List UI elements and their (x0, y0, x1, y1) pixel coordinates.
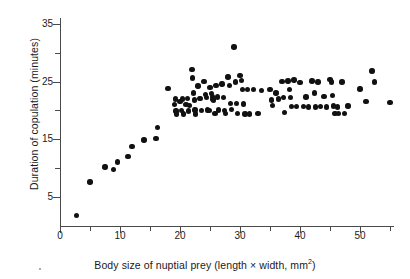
data-point (115, 159, 120, 164)
data-point (255, 111, 260, 116)
data-point (336, 111, 341, 116)
data-point (245, 87, 250, 92)
data-point (141, 137, 146, 142)
x-tick-label: 50 (340, 230, 380, 241)
data-point (189, 67, 194, 72)
x-tick-label: 0 (40, 230, 80, 241)
y-tick-label: 15 (42, 133, 53, 144)
data-point (234, 101, 239, 106)
data-point (187, 103, 192, 108)
x-tick-label: 20 (160, 230, 200, 241)
data-point (206, 108, 211, 113)
data-point (111, 167, 116, 172)
y-tick-major (53, 139, 60, 140)
data-point (213, 83, 218, 88)
y-axis-line (60, 18, 61, 227)
data-point (303, 94, 308, 99)
y-tick-minor (55, 53, 60, 54)
data-point (339, 79, 344, 84)
x-axis-line (60, 226, 394, 227)
data-point (102, 164, 107, 169)
plot-area (60, 18, 393, 226)
data-point (335, 104, 340, 109)
data-point (312, 90, 317, 95)
data-point (231, 44, 236, 49)
data-point (74, 213, 79, 218)
data-point (288, 95, 293, 100)
data-point (219, 81, 224, 86)
data-point (329, 79, 334, 84)
data-point (233, 79, 238, 84)
y-tick-minor (55, 168, 60, 169)
data-point (165, 86, 170, 91)
data-point (125, 154, 130, 159)
y-tick-major (53, 24, 60, 25)
data-point (201, 79, 206, 84)
data-point (282, 110, 287, 115)
data-point (269, 97, 274, 102)
data-point (225, 74, 230, 79)
scatter-plot-figure: Duration of copulation (minutes) 5152535… (0, 0, 410, 279)
x-tick-label: 40 (280, 230, 320, 241)
y-tick-minor (55, 110, 60, 111)
data-point (129, 144, 134, 149)
data-point (193, 111, 198, 116)
data-point (215, 94, 220, 99)
data-point (199, 108, 204, 113)
data-point (191, 90, 196, 95)
data-point (221, 95, 226, 100)
data-point (363, 99, 368, 104)
data-point (241, 101, 246, 106)
data-point (198, 96, 203, 101)
data-point (227, 83, 232, 88)
data-point (153, 136, 158, 141)
y-tick-label: 5 (47, 191, 53, 202)
y-tick-label: 35 (42, 18, 53, 29)
data-point (229, 107, 234, 112)
data-point (239, 78, 244, 83)
x-tick-labels: 01020304050 (60, 230, 400, 246)
data-point (190, 75, 195, 80)
x-axis-title-text: Body size of nuptial prey (length × widt… (94, 259, 308, 271)
data-point (315, 79, 320, 84)
data-point (174, 111, 179, 116)
data-point (186, 108, 191, 113)
x-axis-title-tail: ) (312, 259, 316, 271)
data-point (251, 87, 256, 92)
data-point (291, 77, 296, 82)
data-point (287, 87, 292, 92)
data-point (223, 111, 228, 116)
data-point (259, 88, 264, 93)
data-point (306, 104, 311, 109)
data-point (207, 85, 212, 90)
y-tick-label: 25 (42, 76, 53, 87)
data-point (273, 90, 278, 95)
data-point (87, 179, 92, 184)
data-point (204, 95, 209, 100)
data-point (297, 80, 302, 85)
data-point (195, 83, 200, 88)
data-point (345, 103, 350, 108)
data-point (281, 95, 286, 100)
x-tick-label: 30 (220, 230, 260, 241)
data-point (294, 104, 299, 109)
data-point (228, 101, 233, 106)
data-point (387, 100, 392, 105)
data-point (235, 111, 240, 116)
data-point (270, 103, 275, 108)
data-point (185, 96, 190, 101)
data-point (279, 79, 284, 84)
data-point (318, 104, 323, 109)
y-tick-major (53, 197, 60, 198)
data-point (342, 111, 347, 116)
data-point (309, 78, 314, 83)
x-axis-title: Body size of nuptial prey (length × widt… (0, 258, 410, 271)
y-tick-major (53, 82, 60, 83)
data-point (330, 93, 335, 98)
data-point (324, 104, 329, 109)
data-point (155, 125, 160, 130)
y-tick-labels: 5152535 (33, 18, 53, 226)
data-point (357, 86, 362, 91)
data-point (372, 79, 377, 84)
data-point (216, 107, 221, 112)
